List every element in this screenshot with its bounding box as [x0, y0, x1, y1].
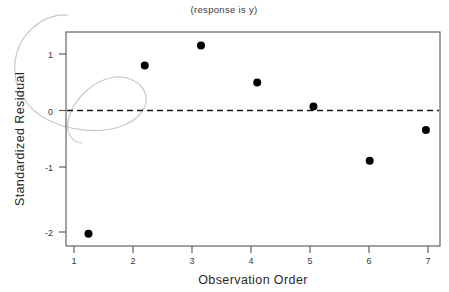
chart-background: [0, 0, 449, 292]
x-tick-label-5: 5: [307, 256, 312, 266]
x-tick-label-6: 6: [366, 256, 371, 266]
data-point: [366, 157, 374, 165]
chart-title: (response is y): [191, 4, 258, 15]
data-point: [309, 103, 317, 111]
y-axis-title: Standardized Residual: [13, 72, 27, 206]
y-tick-label-minus-1: -1: [45, 163, 53, 173]
y-tick-label-0: 0: [48, 107, 53, 117]
data-point: [197, 41, 205, 49]
chart-screenshot: (response is y) 1 0 -1 -2 Standardized R…: [0, 0, 449, 292]
y-tick-label-minus-2: -2: [45, 228, 53, 238]
x-axis-title: Observation Order: [198, 273, 308, 287]
x-tick-label-3: 3: [189, 256, 194, 266]
residual-scatter-chart: (response is y) 1 0 -1 -2 Standardized R…: [0, 0, 449, 292]
data-point: [253, 78, 261, 86]
data-point: [141, 62, 149, 70]
y-tick-label-1: 1: [48, 50, 53, 60]
data-point: [422, 126, 430, 134]
data-point: [85, 230, 93, 238]
x-tick-label-1: 1: [71, 256, 76, 266]
x-tick-label-7: 7: [425, 256, 430, 266]
x-tick-label-4: 4: [248, 256, 253, 266]
x-tick-label-2: 2: [130, 256, 135, 266]
